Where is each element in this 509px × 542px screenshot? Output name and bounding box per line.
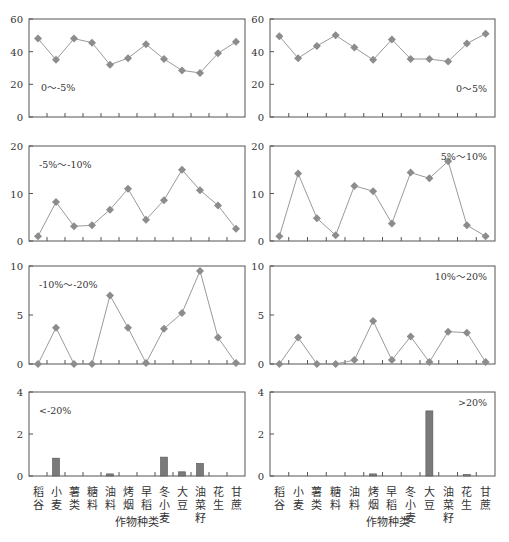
panel-left-4: 024<-20%稻谷小麦薯类糖料油料烤烟早稻冬小麦大豆油菜籽花生甘蔗作物种类: [17, 387, 245, 529]
panel-right-1: 02040600～5%: [251, 14, 495, 123]
y-tick-label: 4: [17, 387, 23, 398]
series-line: [279, 161, 485, 236]
x-category-label: 烤: [368, 485, 379, 499]
data-point-marker: [124, 54, 132, 62]
data-point-marker: [232, 38, 240, 46]
x-category-label: 料: [330, 498, 341, 512]
x-category-label: 蔗: [231, 499, 242, 512]
data-point-marker: [124, 324, 132, 332]
data-bar: [53, 458, 60, 476]
plot-frame: [29, 19, 245, 117]
x-category-label: 糖: [330, 485, 341, 499]
y-tick-label: 0: [17, 471, 23, 482]
x-category-label: 豆: [424, 499, 435, 512]
data-point-marker: [350, 44, 358, 52]
x-category-label: 冬: [159, 485, 170, 499]
x-category-label: 菜: [195, 499, 206, 512]
series-line: [38, 170, 236, 237]
data-point-marker: [425, 358, 433, 366]
x-category-label: 稻: [386, 499, 397, 512]
series-line: [279, 321, 485, 364]
panel-range-label: >20%: [458, 397, 487, 408]
y-tick-label: 2: [258, 429, 264, 440]
x-axis-title: 作物种类: [366, 515, 410, 529]
x-category-label: 油: [443, 485, 454, 499]
data-point-marker: [332, 31, 340, 39]
x-category-label: 菜: [443, 499, 454, 512]
y-tick-label: 10: [251, 189, 264, 200]
data-point-marker: [178, 66, 186, 74]
x-category-label: 糖: [87, 485, 98, 499]
data-point-marker: [34, 232, 42, 240]
x-category-label: 生: [461, 498, 472, 512]
x-category-label: 甘: [231, 486, 242, 499]
panel-right-3: 051010%～20%: [251, 261, 495, 370]
data-point-marker: [106, 291, 114, 299]
data-point-marker: [196, 267, 204, 275]
panel-right-2: 010205%～10%: [251, 141, 495, 247]
data-bar: [197, 463, 204, 476]
x-category-label: 麦: [293, 499, 304, 512]
data-point-marker: [70, 360, 78, 368]
y-tick-label: 0: [258, 236, 264, 247]
data-point-marker: [350, 356, 358, 364]
series-line: [279, 34, 485, 62]
data-point-marker: [332, 360, 340, 368]
panel-left-2: 01020-5%～-10%: [10, 141, 245, 247]
x-category-label: 籽: [443, 512, 454, 525]
data-point-marker: [313, 360, 321, 368]
data-bar: [426, 411, 433, 476]
y-tick-label: 0: [17, 236, 23, 247]
x-category-label: 薯: [69, 486, 80, 499]
series-line: [38, 39, 236, 73]
data-point-marker: [369, 317, 377, 325]
x-category-label: 早: [386, 486, 397, 499]
y-tick-label: 20: [10, 141, 23, 152]
data-point-marker: [214, 334, 222, 342]
data-point-marker: [463, 329, 471, 337]
data-point-marker: [52, 198, 60, 206]
y-tick-label: 60: [251, 14, 264, 25]
data-bar: [107, 474, 114, 476]
x-category-label: 蔗: [480, 499, 491, 512]
x-category-label: 谷: [274, 499, 285, 512]
data-bar: [370, 474, 377, 476]
panel-range-label: -10%～-20%: [39, 279, 98, 290]
y-tick-label: 2: [17, 429, 23, 440]
data-point-marker: [369, 187, 377, 195]
x-category-label: 稻: [274, 486, 285, 499]
y-tick-label: 4: [258, 387, 264, 398]
x-category-label: 油: [349, 485, 360, 499]
data-point-marker: [88, 360, 96, 368]
y-tick-label: 0: [258, 359, 264, 370]
data-point-marker: [232, 225, 240, 233]
x-category-label: 谷: [33, 499, 44, 512]
chart-svg: 02040600～-5%02040600～5%01020-5%～-10%0102…: [0, 0, 509, 542]
data-point-marker: [482, 358, 490, 366]
x-category-label: 薯: [311, 486, 322, 499]
x-category-label: 花: [213, 486, 224, 499]
panel-right-4: 024>20%稻谷小麦薯类糖料油料烤烟早稻冬小麦大豆油菜籽花生甘蔗作物种类: [258, 387, 495, 529]
chart-figure: 02040600～-5%02040600～5%01020-5%～-10%0102…: [0, 0, 509, 542]
data-point-marker: [275, 360, 283, 368]
data-point-marker: [294, 334, 302, 342]
y-tick-label: 0: [258, 112, 264, 123]
x-category-label: 烟: [123, 498, 134, 512]
data-point-marker: [232, 359, 240, 367]
y-tick-label: 20: [251, 141, 264, 152]
x-category-label: 油: [105, 485, 116, 499]
x-category-label: 油: [195, 485, 206, 499]
y-tick-label: 40: [10, 47, 23, 58]
panel-range-label: 10%～20%: [435, 271, 487, 282]
x-category-label: 类: [69, 498, 80, 512]
panel-range-label: 0～-5%: [41, 82, 75, 93]
x-category-label: 小: [51, 486, 62, 499]
x-category-label: 花: [461, 486, 472, 499]
data-point-marker: [444, 328, 452, 336]
panel-range-label: <-20%: [39, 405, 71, 416]
data-point-marker: [34, 360, 42, 368]
data-point-marker: [142, 359, 150, 367]
data-point-marker: [388, 219, 396, 227]
y-tick-label: 5: [17, 310, 23, 321]
x-category-label: 料: [87, 498, 98, 512]
